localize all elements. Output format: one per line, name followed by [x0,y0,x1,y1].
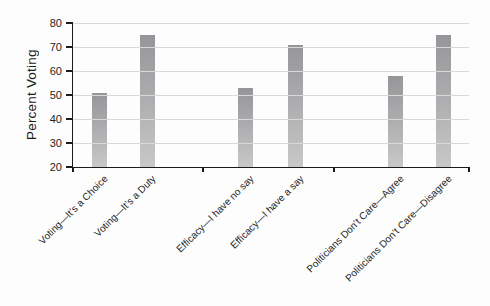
y-tick-50 [66,94,72,95]
bar-3 [288,45,303,167]
bar-2 [238,88,253,167]
y-tick-70 [66,46,72,47]
y-tick-20 [66,166,72,167]
plot-area: 20304050607080Voting—It’s a ChoiceVoting… [0,0,490,306]
y-tick-80 [66,22,72,23]
gridline-40 [73,119,469,120]
bar-1 [140,35,155,167]
x-axis-line [72,167,470,169]
x-tick-3 [468,167,469,172]
gridline-50 [73,95,469,96]
x-tick-0 [72,167,73,172]
gridline-60 [73,71,469,72]
bar-4 [388,76,403,167]
gridline-70 [73,47,469,48]
y-axis-line [72,22,74,169]
y-tick-40 [66,118,72,119]
bar-0 [92,93,107,167]
y-tick-30 [66,142,72,143]
y-tick-60 [66,70,72,71]
x-tick-2 [333,167,334,172]
gridline-80 [73,23,469,24]
bar-chart-figure: Percent Voting 20304050607080Voting—It’s… [0,0,490,306]
bar-5 [436,35,451,167]
y-axis-title: Percent Voting [24,23,40,167]
gridline-30 [73,143,469,144]
x-tick-1 [202,167,203,172]
